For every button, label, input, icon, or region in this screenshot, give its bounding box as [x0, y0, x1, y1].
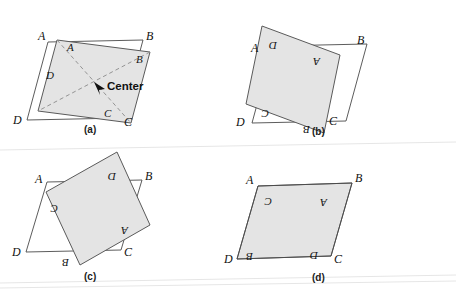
panel-b-outline-label-B: B: [357, 33, 365, 47]
panel-d-shaded-parallelogram: [237, 183, 352, 259]
panel-c-outline-label-D: D: [11, 245, 21, 259]
panel-d-outline-label-C: C: [334, 252, 343, 266]
panel-b-inner-label-C: C: [261, 108, 269, 120]
panel-b-inner-label-B: B: [303, 124, 310, 136]
panel-b-outline-label-D: D: [235, 115, 245, 129]
panel-c-shaded-parallelogram: [46, 152, 150, 265]
geometry-figure-svg: A B C D A B C D Center A B C D A B C D: [0, 0, 456, 290]
panel-c-inner-label-A: A: [121, 225, 129, 237]
panel-b: A B C D A B C D: [235, 26, 367, 136]
panel-d-outline-label-A: A: [245, 173, 254, 187]
panel-a-center-label: Center: [107, 80, 144, 92]
panel-d-inner-label-C: C: [264, 196, 272, 208]
panel-a-inner-label-B: B: [136, 53, 143, 65]
panel-b-inner-label-A: A: [313, 56, 321, 68]
panel-a-outline-label-B: B: [146, 29, 154, 43]
figure-root: A B C D A B C D Center A B C D A B C D: [0, 0, 456, 290]
panel-d-outline-label-B: B: [355, 171, 363, 185]
panel-c-caption: (c): [84, 271, 96, 282]
panel-d-inner-label-D: D: [310, 250, 319, 262]
panel-c-outline-label-B: B: [145, 169, 153, 183]
panel-d-inner-label-B: B: [246, 251, 253, 263]
scan-divider-line-1: [0, 142, 456, 150]
panel-d-caption: (d): [312, 272, 325, 283]
panel-a-caption: (a): [84, 124, 96, 135]
panel-b-inner-label-D: D: [269, 40, 278, 52]
panel-a-outline-label-A: A: [37, 29, 46, 43]
panel-a-inner-label-D: D: [45, 69, 54, 81]
panel-a-inner-label-A: A: [66, 41, 74, 53]
panel-b-outline-label-A: A: [250, 41, 259, 55]
panel-b-caption: (b): [312, 126, 325, 137]
panel-d-inner-label-A: A: [320, 197, 328, 209]
panel-c-outline-label-A: A: [34, 172, 43, 186]
panel-d-outline-label-D: D: [223, 252, 233, 266]
panel-b-outline-label-C: C: [329, 114, 338, 128]
panel-c-inner-label-B: B: [62, 257, 69, 269]
panel-a-outline-label-D: D: [12, 113, 22, 127]
panel-c-inner-label-D: D: [108, 171, 117, 183]
panel-a: A B C D A B C D Center: [12, 29, 154, 129]
panel-a-inner-label-C: C: [104, 107, 112, 119]
panel-c-inner-label-C: C: [50, 203, 58, 215]
panel-c-outline-label-C: C: [124, 245, 133, 259]
panel-d: A B C D A B C D: [223, 171, 363, 266]
panel-c: A B C D A B C D: [11, 152, 153, 269]
panel-b-shaded-parallelogram: [246, 26, 340, 133]
panel-a-outline-label-C: C: [124, 115, 133, 129]
